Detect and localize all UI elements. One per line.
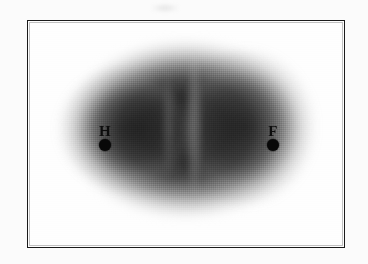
marker-h-dot-icon [99, 139, 111, 151]
scan-smudge [150, 4, 180, 12]
midline-light-streak [188, 51, 200, 201]
figure-root: H F [0, 0, 368, 264]
density-field-right-lobe [183, 47, 329, 207]
marker-h-label: H [99, 124, 111, 139]
figure-frame: H F [27, 20, 345, 248]
marker-f-label: F [268, 124, 277, 139]
density-field [28, 21, 344, 247]
midline-light-streak-secondary [164, 63, 173, 183]
marker-f-dot-icon [267, 139, 279, 151]
